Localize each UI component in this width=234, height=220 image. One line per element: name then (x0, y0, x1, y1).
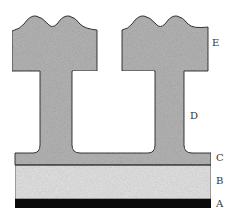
label-a: A (216, 199, 223, 209)
layer-b (15, 165, 211, 199)
label-b: B (216, 176, 223, 186)
label-d: D (190, 111, 198, 121)
label-c: C (216, 153, 224, 163)
gap-between-pillars (73, 71, 154, 152)
cross-section-diagram (0, 0, 234, 220)
layer-a (15, 198, 211, 208)
label-e: E (212, 38, 219, 48)
